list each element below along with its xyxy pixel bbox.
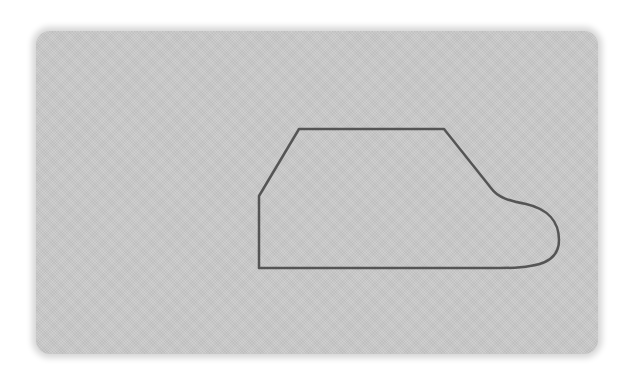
outline-shape-layer: [0, 0, 634, 370]
figure-canvas: [0, 0, 634, 370]
closed-outline-shape: [259, 129, 559, 268]
